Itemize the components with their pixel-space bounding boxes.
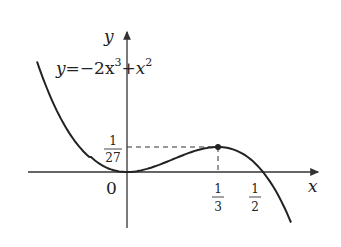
x-axis-label: x (308, 176, 318, 196)
origin-label: 0 (106, 178, 117, 198)
x-tick-1-2: 1 2 (249, 182, 261, 214)
max-point (215, 144, 221, 150)
svg-text:1: 1 (214, 182, 222, 196)
svg-text:y=−2x3+x2: y=−2x3+x2 (55, 56, 152, 78)
svg-text:27: 27 (105, 151, 120, 165)
x-tick-1-3: 1 3 (212, 182, 224, 214)
svg-text:1: 1 (109, 134, 117, 148)
cubic-curve (37, 62, 291, 223)
y-axis-label: y (103, 26, 114, 46)
equation-label: y=−2x3+x2 (55, 56, 152, 78)
svg-text:3: 3 (214, 200, 222, 214)
cubic-graph: y x 0 y=−2x3+x2 1 27 1 3 1 2 (0, 0, 341, 247)
y-tick-1-27: 1 27 (104, 134, 122, 165)
svg-text:2: 2 (251, 200, 259, 214)
svg-text:1: 1 (251, 182, 259, 196)
